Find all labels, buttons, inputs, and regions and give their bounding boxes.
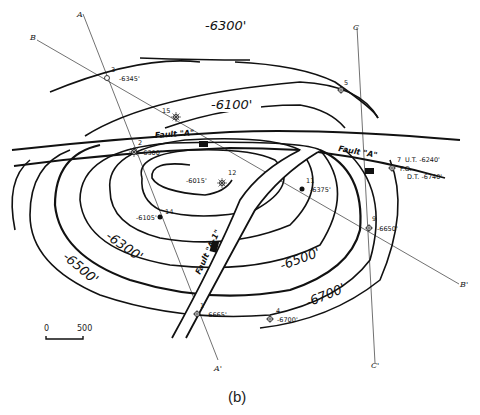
section-label-a: A (76, 10, 83, 19)
svg-text:-6300': -6300' (141, 149, 162, 157)
svg-text:3: 3 (111, 66, 115, 74)
svg-text:-6650': -6650' (377, 225, 398, 233)
structure-contour-map: A A' B B' C C' - (0, 0, 480, 415)
svg-text:2: 2 (138, 139, 142, 147)
fault-a-downthrow-mark (199, 141, 208, 147)
well-11: 11 -6375' (300, 177, 331, 194)
scale-start: 0 (44, 324, 49, 333)
fault-a-label-left: Fault "A" (155, 128, 195, 140)
well-9: 9 -6650' (365, 215, 398, 233)
svg-text:7: 7 (397, 156, 401, 164)
svg-text:4: 4 (276, 307, 280, 315)
svg-text:1: 1 (200, 302, 204, 310)
scale-end: 500 (77, 324, 92, 333)
section-label-c: C (353, 23, 359, 32)
svg-text:12: 12 (228, 169, 236, 177)
svg-text:-6375': -6375' (310, 186, 331, 194)
contour-label-6300-lower-left: -6300' (103, 228, 145, 264)
svg-text:11: 11 (306, 177, 314, 185)
section-label-a-prime: A' (213, 364, 222, 373)
svg-text:15: 15 (162, 107, 170, 115)
svg-text:U.T. -6240': U.T. -6240' (405, 156, 440, 164)
svg-text:D.T. -6740': D.T. -6740' (407, 173, 442, 181)
scale-bar: 0 500 (44, 324, 92, 339)
svg-text:-6700': -6700' (277, 316, 298, 324)
well-14: 14 -6105' (136, 208, 173, 222)
section-label-b: B (29, 33, 36, 42)
contour-label-6300-top: -6300' (205, 18, 246, 33)
svg-text:5: 5 (344, 79, 348, 87)
svg-text:F.O.: F.O. (400, 165, 412, 173)
contour-label-6100: -6100' (211, 97, 252, 112)
well-15: 15 (162, 107, 181, 122)
contour-label-6500-left: -6500' (60, 249, 101, 287)
section-label-b-prime: B' (459, 280, 468, 289)
well-7: 7 U.T. -6240' F.O. D.T. -6740' (388, 156, 442, 181)
svg-text:-6105': -6105' (136, 214, 157, 222)
figure-caption: (b) (228, 388, 246, 405)
section-label-c-prime: C' (371, 361, 379, 370)
svg-text:9: 9 (372, 215, 376, 223)
svg-text:-6345': -6345' (119, 75, 140, 83)
contour-label-6500-right: -6500' (278, 245, 322, 273)
svg-text:-6015': -6015' (186, 177, 207, 185)
wells: 3 -6345' 15 5 2 -6300' 7 U.T. -6240' (105, 66, 443, 324)
section-line-c (357, 27, 375, 363)
svg-text:-6665': -6665' (206, 311, 227, 319)
fault-a-downthrow-mark-east (365, 168, 374, 174)
svg-text:14: 14 (165, 208, 173, 216)
